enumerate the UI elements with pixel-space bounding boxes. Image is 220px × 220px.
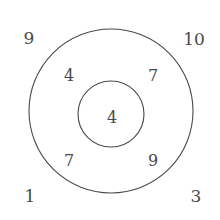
annulus-bottom-right-label: 9	[148, 153, 158, 169]
annulus-top-right-label: 7	[148, 68, 158, 84]
concentric-circle-diagram: 9 10 1 3 4 7 7 9 4	[0, 0, 220, 220]
outside-bottom-right-label: 3	[191, 188, 202, 205]
center-region-label: 4	[107, 110, 117, 126]
outside-bottom-left-label: 1	[25, 188, 36, 205]
annulus-top-left-label: 4	[64, 68, 74, 84]
outside-top-right-label: 10	[183, 31, 205, 48]
outside-top-left-label: 9	[24, 30, 35, 47]
annulus-bottom-left-label: 7	[64, 153, 74, 169]
